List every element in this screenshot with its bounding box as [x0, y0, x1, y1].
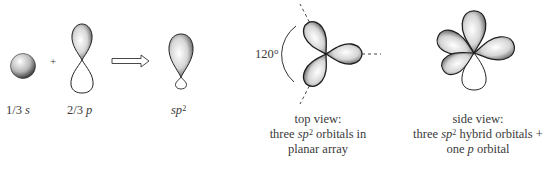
s-orbital-symbol: s [25, 103, 30, 117]
top-view-caption-line1: top view: [262, 112, 374, 127]
p-fraction: 2/3 [67, 103, 83, 117]
sp-superscript: 2 [182, 104, 186, 113]
reaction-arrow-icon [112, 55, 149, 67]
p-orbital-symbol: p [86, 103, 92, 117]
p-label: 2/3 p [67, 103, 92, 118]
angle-label: 120° [255, 47, 279, 62]
sp-superscript: 2 [309, 128, 313, 137]
plus-sign: + [50, 54, 56, 69]
text: three [270, 127, 298, 141]
angle-arc [282, 26, 296, 82]
text: three [413, 127, 441, 141]
text: orbital [474, 142, 510, 156]
text: one [446, 142, 467, 156]
s-orbital-icon [11, 54, 36, 79]
side-view-caption-line1: side view: [408, 112, 548, 127]
side-view-orbitals [433, 11, 516, 90]
s-fraction: 1/3 [6, 103, 22, 117]
p-orbital-icon [71, 24, 93, 93]
text: orbitals in [313, 127, 366, 141]
top-view-orbitals [282, 4, 381, 104]
sp-text: sp [171, 103, 182, 117]
top-view-caption: top view: three sp2 orbitals in planar a… [262, 112, 374, 157]
s-label: 1/3 s [6, 103, 30, 118]
side-view-caption: side view: three sp2 hybrid orbitals + o… [408, 112, 548, 157]
top-view-caption-line2: three sp2 orbitals in [262, 127, 374, 142]
sp-superscript: 2 [452, 128, 456, 137]
top-view-caption-line3: planar array [262, 142, 374, 157]
side-view-caption-line2: three sp2 hybrid orbitals + [408, 127, 548, 142]
sp-text: sp [298, 127, 309, 141]
sp2-label: sp2 [171, 103, 186, 118]
text: hybrid orbitals + [456, 127, 543, 141]
side-view-caption-line3: one p orbital [408, 142, 548, 157]
sp2-orbital-icon [169, 34, 193, 89]
sp-text: sp [441, 127, 452, 141]
